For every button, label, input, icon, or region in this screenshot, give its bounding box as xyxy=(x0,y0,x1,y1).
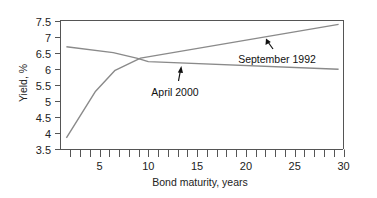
arrowhead-icon xyxy=(178,66,183,73)
annotation-april-2000: April 2000 xyxy=(151,66,198,98)
x-tick-label: 25 xyxy=(289,160,301,172)
annotation-label-april-2000: April 2000 xyxy=(151,86,198,98)
series-line-september-1992 xyxy=(66,24,338,137)
x-tick-label: 10 xyxy=(142,160,154,172)
x-tick-label: 5 xyxy=(96,160,102,172)
y-tick-label: 5 xyxy=(45,96,51,108)
y-axis-ticks: 3.544.555.566.577.5 xyxy=(36,16,61,156)
y-tick-label: 5.5 xyxy=(36,80,51,92)
x-axis-ticks: 51015202530 xyxy=(71,150,350,173)
y-tick-label: 6.5 xyxy=(36,48,51,60)
y-tick-label: 7.5 xyxy=(36,16,51,28)
plot-frame xyxy=(55,20,344,150)
yield-curve-chart: 3.544.555.566.577.5 51015202530 Yield, %… xyxy=(0,0,377,198)
y-tick-label: 6 xyxy=(45,64,51,76)
x-tick-label: 30 xyxy=(337,160,349,172)
y-axis-title: Yield, % xyxy=(17,64,29,102)
x-tick-label: 15 xyxy=(191,160,203,172)
y-tick-label: 7 xyxy=(45,32,51,44)
x-tick-label: 20 xyxy=(240,160,252,172)
annotation-label-september-1992: September 1992 xyxy=(238,53,316,65)
y-tick-label: 4.5 xyxy=(36,112,51,124)
annotation-september-1992: September 1992 xyxy=(238,39,316,66)
series-lines xyxy=(66,24,338,137)
x-axis-title: Bond maturity, years xyxy=(152,176,248,188)
y-tick-label: 4 xyxy=(45,128,51,140)
y-tick-label: 3.5 xyxy=(36,144,51,156)
